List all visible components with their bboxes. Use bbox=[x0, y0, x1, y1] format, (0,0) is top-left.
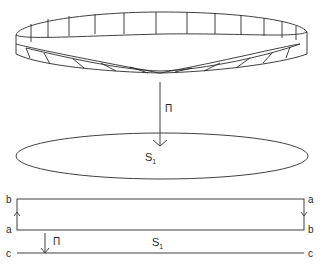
base-line-right-label: c bbox=[308, 248, 313, 259]
band-outer-cross bbox=[26, 44, 300, 71]
base-line-left-label: c bbox=[6, 248, 11, 259]
base-line-s1-label: S1 bbox=[152, 236, 163, 250]
band-inner-top-edge bbox=[16, 32, 307, 37]
mobius-band bbox=[16, 12, 307, 73]
corner-label-bottom-right: b bbox=[308, 224, 314, 235]
corner-label-top-left: b bbox=[6, 194, 12, 205]
projection-arrow-top bbox=[153, 82, 167, 146]
circle-s1 bbox=[16, 133, 308, 179]
circle-s1-label: S1 bbox=[145, 151, 156, 165]
projection-label-bottom: Π bbox=[53, 236, 60, 247]
projection-label-top: Π bbox=[165, 103, 172, 114]
band-lower-edge-b bbox=[16, 44, 300, 73]
mobius-diagram: Π S1 b a a b Π c c S1 bbox=[0, 0, 323, 268]
corner-label-top-right: a bbox=[308, 194, 314, 205]
corner-label-bottom-left: a bbox=[6, 224, 12, 235]
identification-rectangle bbox=[17, 199, 304, 230]
projection-arrow-bottom bbox=[41, 233, 49, 253]
band-lower-edge-a bbox=[16, 54, 307, 73]
band-top-edge bbox=[16, 12, 307, 35]
